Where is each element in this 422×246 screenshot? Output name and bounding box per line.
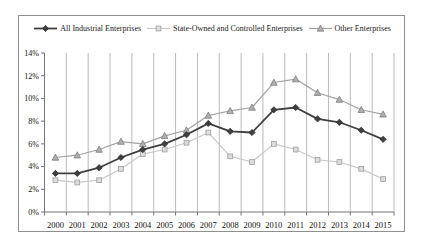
y-tick-label: 10% [24, 94, 39, 103]
legend-item-state-owned-enterprises: State-Owned and Controlled Enterprises [147, 24, 303, 33]
x-tick-label: 2004 [134, 220, 152, 230]
x-tick-label: 2001 [69, 220, 86, 230]
y-tick-label: 6% [28, 140, 39, 149]
x-tick-label: 2003 [112, 220, 129, 230]
legend-label: State-Owned and Controlled Enterprises [173, 24, 303, 33]
x-tick-label: 2014 [353, 220, 371, 230]
legend-label: All Industrial Enterprises [60, 24, 141, 33]
figure: 0%2%4%6%8%10%12%14%200020012002200320042… [0, 0, 422, 246]
x-axis-ticks [45, 212, 395, 216]
y-tick-label: 2% [28, 185, 39, 194]
legend-item-all-industrial-enterprises: All Industrial Enterprises [34, 24, 141, 33]
y-tick-label: 0% [28, 208, 39, 217]
x-tick-label: 2005 [156, 220, 173, 230]
legend-item-other-enterprises: Other Enterprises [309, 24, 391, 33]
x-tick-label: 2009 [244, 220, 261, 230]
y-tick-label: 8% [28, 117, 39, 126]
x-tick-label: 2007 [200, 220, 217, 230]
triangle-marker-icon [309, 24, 332, 33]
line-chart-canvas: 0%2%4%6%8%10%12%14%200020012002200320042… [0, 0, 422, 246]
y-tick-label: 4% [28, 162, 39, 171]
y-tick-label: 12% [24, 72, 39, 81]
x-tick-label: 2011 [287, 220, 304, 230]
x-tick-label: 2010 [265, 220, 282, 230]
chart-legend: All Industrial Enterprises State-Owned a… [19, 24, 406, 33]
x-tick-label: 2002 [91, 220, 108, 230]
x-tick-label: 2015 [375, 220, 392, 230]
x-tick-label: 2012 [309, 220, 326, 230]
x-tick-label: 2006 [178, 220, 195, 230]
y-axis-labels: 0%2%4%6%8%10%12%14% [24, 49, 44, 217]
x-axis-labels: 2000200120022003200420052006200720082009… [47, 220, 392, 230]
x-tick-label: 2008 [222, 220, 239, 230]
x-tick-label: 2013 [331, 220, 348, 230]
x-tick-label: 2000 [47, 220, 64, 230]
square-marker-icon [147, 24, 170, 33]
legend-label: Other Enterprises [335, 24, 391, 33]
diamond-marker-icon [34, 24, 57, 33]
y-tick-label: 14% [24, 49, 39, 58]
